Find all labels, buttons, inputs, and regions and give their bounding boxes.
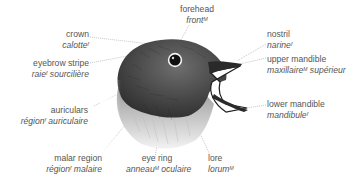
eye-highlight (172, 57, 174, 59)
neck-fade (100, 80, 160, 160)
label-forehead: forehead frontM (176, 4, 218, 25)
label-malar-region: malar region régionf malaire (46, 153, 102, 174)
label-lore: lore lorumM (208, 153, 234, 174)
label-eyebrow-stripe: eyebrow stripe raief sourcilière (32, 58, 89, 79)
label-auriculars: auriculars régionf auriculaire (21, 105, 88, 126)
label-nostril: nostril narinef (267, 29, 292, 50)
label-crown: crown calottef (62, 29, 89, 50)
label-upper-mandible: upper mandible maxillaireM supérieur (267, 54, 346, 75)
eye-icon (169, 54, 180, 65)
label-lower-mandible: lower mandible mandibulef (267, 99, 325, 120)
bird-head-diagram: crown calottef eyebrow stripe raief sour… (0, 0, 359, 186)
label-eye-ring: eye ring anneauM oculaire (126, 153, 188, 174)
